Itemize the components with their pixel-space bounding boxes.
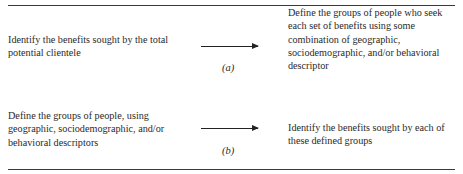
panel-a-right-text: Define the groups of people who seek eac… xyxy=(288,6,450,72)
panel-a-label: (a) xyxy=(222,62,234,73)
panel-a-arrow-icon xyxy=(201,46,258,47)
panel-b-arrow-icon xyxy=(201,128,258,129)
panel-b-right-text: Identify the benefits sought by each of … xyxy=(288,121,458,148)
panel-a-left-text: Identify the benefits sought by the tota… xyxy=(8,33,183,60)
panel-b-left-text: Define the groups of people, using geogr… xyxy=(8,109,168,149)
panel-b-label: (b) xyxy=(222,145,234,156)
bottom-rule xyxy=(8,169,455,170)
